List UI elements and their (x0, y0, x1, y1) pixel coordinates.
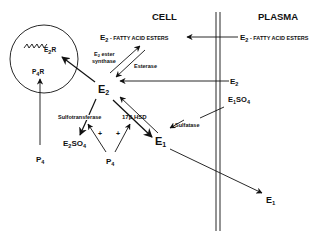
arrow-p4-stim-hsd (115, 124, 130, 152)
hsd-label: 17β HSD (122, 114, 147, 120)
ester-synthase-label: E2 ester (94, 51, 115, 58)
cell-membrane (216, 12, 220, 231)
plus-sign-right: + (116, 130, 120, 137)
arrow-p4-stim-sulfotransferase (88, 124, 106, 152)
e1-plasma-label: E1 (266, 195, 276, 206)
e2-fatty-acid-esters-cell: E2 - FATTY ACID ESTERS (100, 33, 169, 43)
esterase-label: Esterase (134, 63, 157, 69)
e2-center-label: E2 (98, 83, 109, 96)
sulfotransferase-label: Sulfotransferase (58, 114, 101, 120)
region-cell-label: CELL (152, 11, 177, 22)
p4-left-label: P4 (36, 155, 45, 165)
e2r-label: E2R (44, 46, 56, 55)
p4r-label: P4R (32, 68, 44, 77)
ester-synthase-label-line2: synthase (92, 58, 116, 64)
estrogen-metabolism-diagram: CELL PLASMA E2R P4R E2 - FATTY ACID ESTE… (0, 0, 335, 231)
nucleus-circle (10, 25, 78, 93)
p4-center-label: P4 (106, 157, 115, 167)
region-plasma-label: PLASMA (258, 11, 298, 22)
diagram-svg: CELL PLASMA E2R P4R E2 - FATTY ACID ESTE… (0, 0, 335, 231)
e1so4-plasma-label: E1SO4 (228, 95, 251, 105)
e2-fatty-acid-esters-plasma: E2 - FATTY ACID ESTERS (240, 33, 309, 43)
plus-sign-left: + (98, 130, 102, 137)
e2-plasma-label: E2 (230, 77, 238, 87)
e1-cell-label: E1 (155, 135, 166, 148)
sulfatase-label: Sulfatase (175, 122, 199, 128)
e2so4-label: E2SO4 (63, 139, 87, 149)
arrow-e2-to-receptor (62, 57, 95, 82)
